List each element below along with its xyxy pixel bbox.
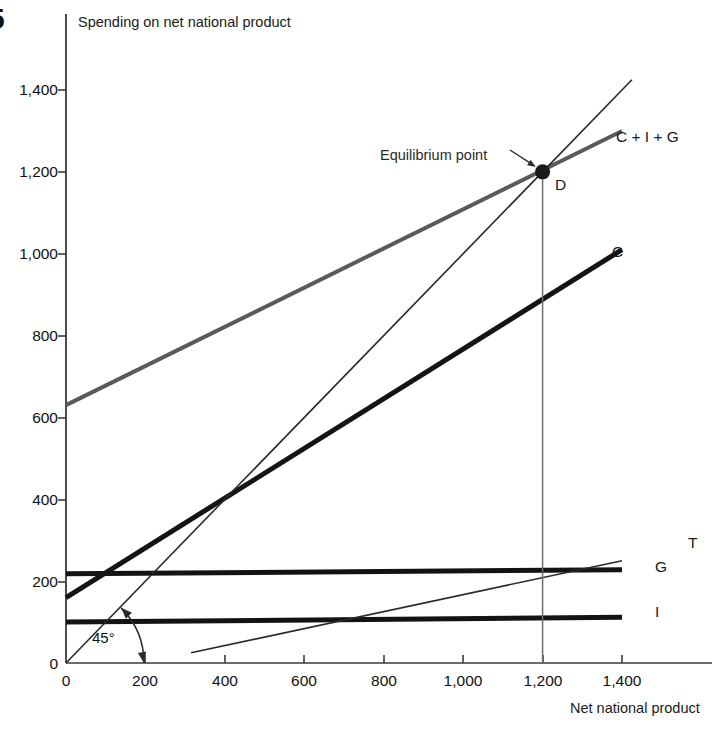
equilibrium-leader-arrow bbox=[527, 160, 535, 167]
figure-chart-container: 5 Spending on net national product Net n… bbox=[0, 0, 723, 741]
equilibrium-point-marker bbox=[535, 164, 550, 179]
series-label-i: I bbox=[655, 603, 659, 621]
x-axis-ticks bbox=[145, 655, 622, 663]
equilibrium-point-annotation: Equilibrium point bbox=[380, 147, 487, 163]
series-label-c-i-g: C + I + G bbox=[616, 128, 679, 146]
series-label-c: C bbox=[612, 243, 623, 261]
series-label-g: G bbox=[655, 558, 667, 576]
series-label-t: T bbox=[688, 534, 697, 552]
series-line-g bbox=[66, 570, 622, 574]
series-line-c bbox=[66, 250, 622, 598]
equilibrium-point-label: D bbox=[555, 176, 566, 194]
angle-45-label: 45° bbox=[92, 629, 115, 646]
y-axis-ticks bbox=[58, 90, 66, 582]
angle-arc-annotation bbox=[121, 608, 146, 663]
